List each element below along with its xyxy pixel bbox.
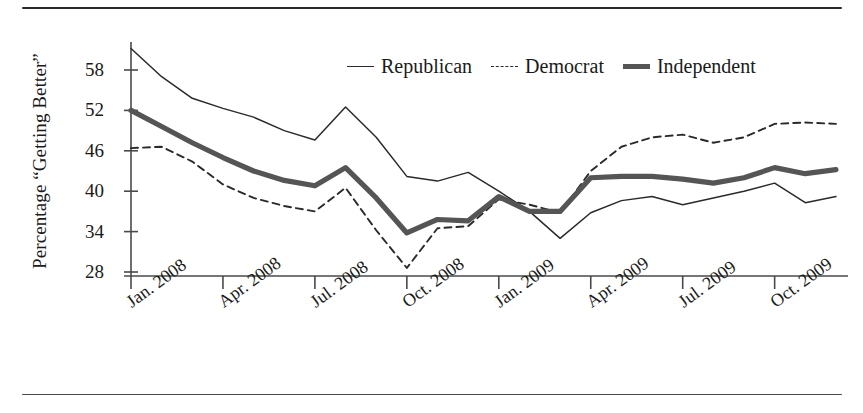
legend-label-democrat: Democrat — [525, 56, 604, 76]
thick-line-swatch-icon — [623, 64, 650, 69]
y-tick-label: 34 — [62, 222, 104, 241]
dashed-line-swatch-icon — [491, 66, 518, 67]
y-tick-label: 46 — [62, 141, 104, 160]
y-tick-label: 28 — [62, 262, 104, 281]
legend-entry-republican: Republican — [347, 56, 472, 76]
chart-legend: Republican Democrat Independent — [347, 56, 756, 76]
figure-container: Percentage “Getting Better” 283440465258… — [0, 0, 863, 413]
y-tick-label: 58 — [62, 60, 104, 79]
thin-line-swatch-icon — [347, 66, 374, 67]
legend-label-republican: Republican — [381, 56, 472, 76]
data-series-group — [131, 48, 836, 268]
legend-entry-independent: Independent — [623, 56, 756, 76]
series-line-democrat — [131, 123, 836, 268]
y-tick-label: 52 — [62, 100, 104, 119]
legend-entry-democrat: Democrat — [491, 56, 604, 76]
legend-label-independent: Independent — [657, 56, 756, 76]
series-line-independent — [131, 110, 836, 233]
y-tick-label: 40 — [62, 181, 104, 200]
